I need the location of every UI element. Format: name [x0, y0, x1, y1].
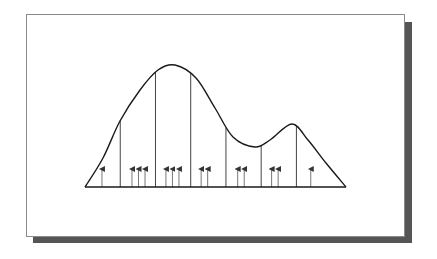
density-curve [85, 65, 346, 187]
density-diagram [0, 0, 437, 259]
bin-lines [120, 72, 296, 187]
sample-arrows [102, 169, 311, 187]
